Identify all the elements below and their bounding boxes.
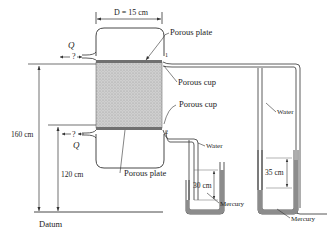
diameter-dimension: D = 15 cm bbox=[96, 8, 162, 24]
right-manometer: 35 cm bbox=[258, 68, 327, 214]
porous-plate-bottom-label: Porous plate bbox=[124, 168, 166, 178]
svg-text:Q: Q bbox=[68, 40, 75, 50]
porous-cup-bottom-label: Porous cup bbox=[179, 99, 217, 109]
porous-plate-bottom bbox=[96, 127, 162, 130]
point-1-label: 1 bbox=[165, 52, 168, 58]
soil-sample bbox=[96, 62, 162, 128]
svg-text:?: ? bbox=[72, 130, 76, 139]
water-left-label: Water bbox=[206, 142, 223, 150]
left-manometer: 30 cm bbox=[186, 140, 224, 214]
porous-plate-top-label: Porous plate bbox=[170, 27, 212, 37]
height-total-label: 160 cm bbox=[11, 130, 33, 139]
mercury-right-label: Mercury bbox=[291, 215, 316, 223]
left-manometer-diff-label: 30 cm bbox=[193, 181, 212, 190]
mercury-left-label: Mercury bbox=[220, 200, 245, 208]
height-lower-label: 120 cm bbox=[61, 170, 83, 179]
flow-top: Q ? bbox=[60, 40, 82, 61]
svg-text:?: ? bbox=[72, 52, 76, 61]
lower-chamber bbox=[96, 134, 164, 168]
permeameter-diagram: D = 15 cm 160 cm 120 cm Datum Q ? ? bbox=[0, 0, 327, 236]
upper-chamber bbox=[96, 28, 164, 56]
svg-text:Q: Q bbox=[73, 140, 80, 150]
porous-plate-top bbox=[96, 60, 162, 63]
diameter-label: D = 15 cm bbox=[114, 8, 149, 17]
right-manometer-diff-label: 35 cm bbox=[265, 168, 284, 177]
water-right-label: Water bbox=[277, 108, 294, 116]
flow-bottom: ? Q bbox=[62, 130, 84, 150]
porous-cup-top-label: Porous cup bbox=[178, 77, 216, 87]
datum-label: Datum bbox=[39, 219, 63, 229]
